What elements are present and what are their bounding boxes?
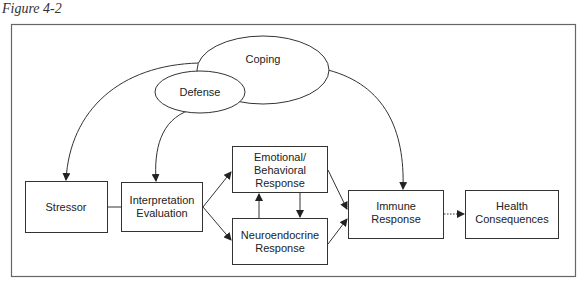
node-neuroendocrine-label-1: Neuroendocrine: [241, 229, 319, 241]
node-interpretation-label-1: Interpretation: [130, 194, 195, 206]
node-defense-label: Defense: [180, 86, 221, 98]
node-stressor: Stressor: [26, 182, 108, 233]
node-emotional-label-2: Behavioral: [254, 164, 306, 176]
node-neuroendocrine-label-2: Response: [255, 242, 305, 254]
node-immune: Immune Response: [349, 191, 444, 239]
node-emotional-label-1: Emotional/: [254, 151, 307, 163]
node-defense: Defense: [155, 71, 245, 113]
edge-defense-to-interpretation: [156, 110, 190, 181]
node-health: Health Consequences: [466, 191, 559, 239]
edge-interpretation-to-neuroendocrine: [203, 207, 231, 240]
node-stressor-label: Stressor: [46, 201, 87, 213]
node-immune-label-2: Response: [371, 213, 421, 225]
node-neuroendocrine: Neuroendocrine Response: [233, 219, 328, 265]
edge-neuroendocrine-to-immune: [328, 219, 347, 244]
node-immune-label-1: Immune: [376, 200, 416, 212]
edge-emotional-to-immune: [328, 170, 347, 209]
node-coping-label: Coping: [246, 53, 281, 65]
edge-coping-to-immune: [328, 70, 403, 189]
diagram-canvas: Coping Defense Stressor Interpretation E…: [0, 0, 584, 285]
node-health-label-2: Consequences: [475, 213, 549, 225]
node-interpretation: Interpretation Evaluation: [122, 183, 203, 232]
node-health-label-1: Health: [496, 200, 528, 212]
node-emotional-label-3: Response: [255, 177, 305, 189]
node-interpretation-label-2: Evaluation: [136, 207, 187, 219]
node-emotional: Emotional/ Behavioral Response: [233, 147, 328, 193]
edge-interpretation-to-emotional: [203, 172, 231, 207]
